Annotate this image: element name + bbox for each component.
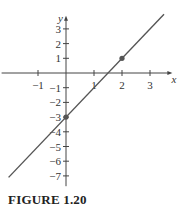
y-tick-label: −1 [49,82,61,94]
x-tick-label: 2 [119,79,125,91]
data-point [119,56,124,61]
y-tick-label: 3 [56,23,62,35]
data-point [63,115,68,120]
y-tick-label: 1 [56,52,62,64]
y-axis-label: y [57,12,63,24]
y-tick-label: −2 [49,96,61,108]
x-axis-label: x [170,73,176,85]
series-line [9,14,164,177]
y-tick-label: −5 [49,141,61,153]
axes: xy [2,12,177,187]
data-series [9,14,164,177]
y-tick-label: −7 [49,170,61,182]
y-tick-label: 2 [56,38,62,50]
y-tick-label: −3 [49,111,61,123]
x-tick-label: 3 [147,79,153,91]
ticks: −1123321−1−2−3−4−5−6−7 [32,23,153,182]
figure-caption: FIGURE 1.20 [8,192,87,208]
line-graph: xy −1123321−1−2−3−4−5−6−7 [0,0,189,190]
y-tick-label: −6 [49,155,61,167]
x-tick-label: −1 [32,79,44,91]
y-axis-arrow-icon [64,16,68,21]
